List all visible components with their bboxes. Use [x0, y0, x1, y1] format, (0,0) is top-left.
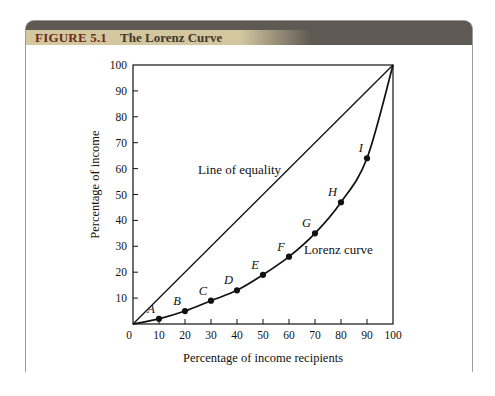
- y-tick-label: 60: [116, 163, 128, 175]
- figure-title: The Lorenz Curve: [107, 30, 222, 46]
- point-label-I: I: [358, 141, 364, 155]
- x-tick-label: 40: [231, 329, 243, 341]
- data-point-B: [182, 308, 188, 314]
- point-label-E: E: [250, 258, 259, 272]
- x-tick-label: 80: [335, 329, 347, 341]
- x-tick-label: 100: [384, 329, 402, 341]
- point-label-D: D: [223, 273, 233, 287]
- lorenz-curve-chart: 0102030405060708090100102030405060708090…: [26, 45, 472, 372]
- data-point-F: [286, 254, 292, 260]
- point-label-A: A: [146, 302, 155, 316]
- x-tick-label: 0: [126, 329, 132, 341]
- data-point-A: [156, 316, 162, 322]
- y-tick-label: 90: [116, 85, 128, 97]
- x-tick-label: 90: [361, 329, 373, 341]
- x-tick-label: 30: [205, 329, 217, 341]
- y-tick-label: 50: [116, 189, 128, 201]
- y-tick-label: 10: [116, 292, 128, 304]
- y-tick-label: 20: [116, 266, 128, 278]
- y-tick-label: 30: [116, 240, 128, 252]
- y-axis-title: Percentage of income: [88, 130, 102, 239]
- x-tick-label: 20: [179, 329, 191, 341]
- figure-number-label: FIGURE 5.1: [26, 30, 107, 46]
- point-label-G: G: [302, 216, 311, 230]
- x-tick-label: 50: [257, 329, 269, 341]
- data-point-G: [312, 230, 318, 236]
- y-tick-label: 100: [110, 59, 128, 71]
- point-label-F: F: [276, 240, 285, 254]
- data-point-I: [364, 155, 370, 161]
- figure-card: FIGURE 5.1 The Lorenz Curve 010203040506…: [25, 20, 473, 372]
- x-tick-label: 70: [309, 329, 321, 341]
- point-label-H: H: [327, 185, 338, 199]
- data-point-C: [208, 298, 214, 304]
- point-label-C: C: [199, 284, 208, 298]
- line-of-equality-line: [133, 65, 393, 324]
- y-tick-label: 70: [116, 137, 128, 149]
- point-label-B: B: [173, 294, 181, 308]
- data-point-H: [338, 199, 344, 205]
- header-title-plate: FIGURE 5.1 The Lorenz Curve: [26, 30, 472, 45]
- annotation-line-of-equality: Line of equality: [198, 162, 282, 177]
- lorenz-curve-svg: 0102030405060708090100102030405060708090…: [26, 45, 472, 372]
- y-tick-label: 80: [116, 111, 128, 123]
- figure-header: FIGURE 5.1 The Lorenz Curve: [26, 21, 472, 45]
- y-tick-label: 40: [116, 214, 128, 226]
- x-tick-label: 60: [283, 329, 295, 341]
- x-tick-label: 10: [153, 329, 165, 341]
- data-point-D: [234, 287, 240, 293]
- data-point-E: [260, 272, 266, 278]
- x-axis-title: Percentage of income recipients: [183, 351, 343, 365]
- annotation-lorenz-curve: Lorenz curve: [304, 242, 373, 257]
